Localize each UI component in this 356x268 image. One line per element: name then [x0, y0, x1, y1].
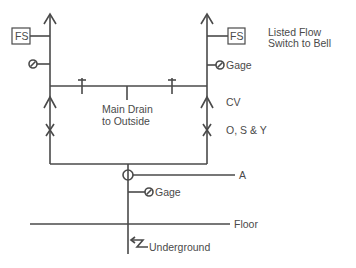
main-supply: A Gage: [50, 164, 246, 254]
gage-main-icon: [145, 188, 153, 196]
fs-left-label: FS: [15, 30, 28, 42]
main-drain-crossover: Main Drain to Outside: [50, 78, 207, 127]
osy-label: O, S & Y: [226, 124, 267, 136]
floor: Floor: [30, 218, 258, 230]
riser-diagram: FS FS Listed Flow Switch to Bell Gage: [0, 0, 356, 268]
cv-label: CV: [226, 96, 241, 108]
gage-right-label: Gage: [226, 59, 252, 71]
right-riser: FS Listed Flow Switch to Bell Gage CV O,…: [201, 14, 331, 164]
main-drain-label-2: to Outside: [102, 115, 150, 127]
floor-label: Floor: [234, 218, 258, 230]
underground-leader: Underground: [131, 237, 210, 253]
left-riser: FS: [12, 14, 56, 164]
main-drain-label-1: Main Drain: [102, 103, 153, 115]
fs-right-label: FS: [230, 30, 243, 42]
underground-label: Underground: [149, 241, 210, 253]
gage-left-icon: [29, 60, 37, 68]
a-label: A: [239, 169, 246, 181]
flow-switch-label-2: Switch to Bell: [268, 37, 331, 49]
gage-right-icon: [216, 61, 224, 69]
gage-bottom-label: Gage: [155, 186, 181, 198]
